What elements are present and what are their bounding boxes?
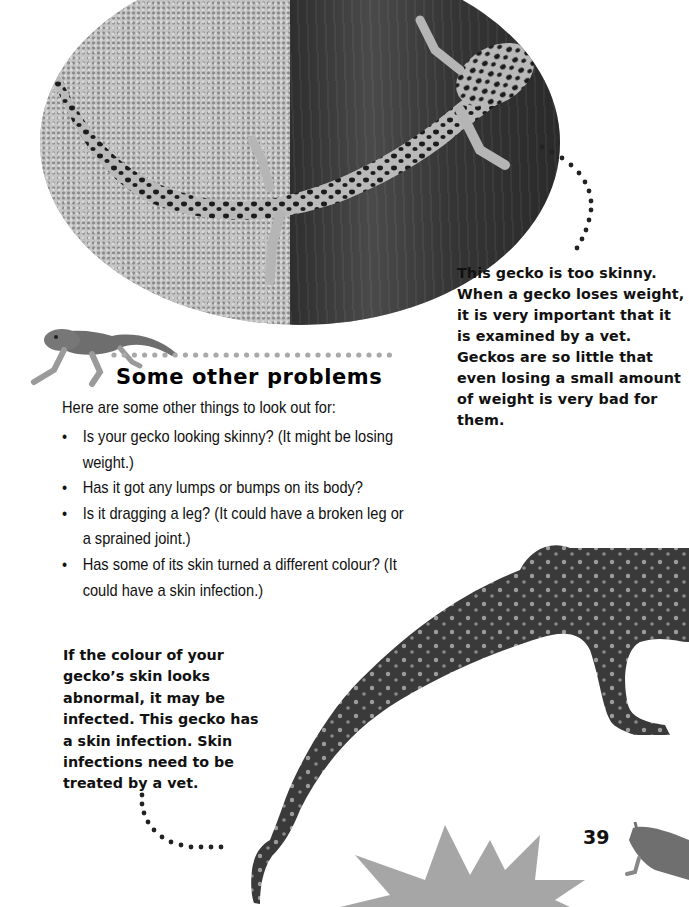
dotted-connector-top bbox=[540, 140, 620, 265]
list-item-text: Has it got any lumps or bumps on its bod… bbox=[83, 478, 363, 497]
heading-dot bbox=[213, 352, 218, 357]
heading-dot bbox=[162, 352, 167, 357]
heading-dot bbox=[254, 352, 259, 357]
heading-dot bbox=[132, 352, 137, 357]
heading-dot bbox=[173, 352, 178, 357]
heading-dot bbox=[366, 352, 371, 357]
dotted-connector-bottom bbox=[135, 790, 235, 870]
heading-dot bbox=[203, 352, 208, 357]
list-item-text: Is your gecko looking skinny? (It might … bbox=[83, 427, 393, 472]
heading-dot bbox=[285, 352, 290, 357]
heading-dot bbox=[387, 352, 392, 357]
bullet-icon: • bbox=[62, 475, 67, 501]
list-item: • Has it got any lumps or bumps on its b… bbox=[62, 475, 406, 501]
bullet-icon: • bbox=[62, 424, 67, 450]
infected-gecko-image bbox=[240, 530, 689, 907]
heading-dot bbox=[295, 352, 300, 357]
heading-dot bbox=[315, 352, 320, 357]
list-item: • Is your gecko looking skinny? (It migh… bbox=[62, 424, 406, 475]
heading-dot bbox=[305, 352, 310, 357]
section-heading: Some other problems bbox=[116, 365, 382, 389]
caption-text-before: If the colour of your gecko’s skin looks bbox=[63, 647, 224, 684]
heading-dot bbox=[244, 352, 249, 357]
page-number: 39 bbox=[583, 826, 609, 848]
heading-dot bbox=[346, 352, 351, 357]
heading-dot bbox=[152, 352, 157, 357]
bullet-icon: • bbox=[62, 552, 67, 578]
heading-dot bbox=[224, 352, 229, 357]
heading-dot bbox=[275, 352, 280, 357]
heading-dot bbox=[356, 352, 361, 357]
heading-dot bbox=[122, 352, 127, 357]
heading-dotted-rule bbox=[110, 350, 400, 360]
heading-dot bbox=[377, 352, 382, 357]
heading-dot bbox=[111, 352, 116, 357]
corner-gecko-image bbox=[625, 820, 689, 880]
heading-dot bbox=[234, 352, 239, 357]
bullet-icon: • bbox=[62, 501, 67, 527]
heading-dot bbox=[142, 352, 147, 357]
caption-bold-term: abnormal bbox=[63, 690, 139, 706]
heading-dot bbox=[326, 352, 331, 357]
caption-skinny-gecko: This gecko is too skinny. When a gecko l… bbox=[457, 263, 689, 431]
heading-dot bbox=[183, 352, 188, 357]
section-intro: Here are some other things to look out f… bbox=[62, 398, 336, 418]
heading-dot bbox=[193, 352, 198, 357]
heading-dot bbox=[336, 352, 341, 357]
heading-dot bbox=[264, 352, 269, 357]
